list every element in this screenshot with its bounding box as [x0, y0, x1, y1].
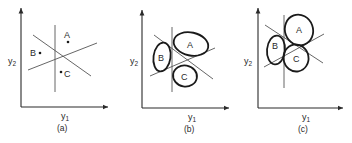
- boundary-ascending: [28, 43, 97, 70]
- boundary-descending: [33, 35, 91, 76]
- class-c-label: C: [64, 69, 71, 79]
- panel-c-caption: (c): [298, 124, 308, 134]
- class-b-label: B: [272, 41, 278, 51]
- class-a-label: A: [64, 30, 70, 40]
- class-b-point: [39, 52, 42, 55]
- class-a-label: A: [187, 40, 193, 50]
- panel-b-caption: (b): [184, 124, 195, 134]
- class-c-point: [60, 71, 63, 74]
- class-c-label: C: [181, 72, 188, 82]
- class-c-label: C: [293, 54, 300, 64]
- panel-a: A B C y2 y1 (a): [8, 8, 108, 133]
- y2-axis-label: y2: [244, 56, 253, 67]
- class-b-label: B: [30, 48, 36, 58]
- y1-axis-label: y1: [302, 112, 311, 123]
- panel-a-caption: (a): [57, 123, 68, 133]
- y1-axis-label: y1: [61, 111, 70, 122]
- class-a-point: [67, 41, 70, 44]
- y2-axis-label: y2: [130, 56, 139, 67]
- panel-b: A B C y2 y1 (b): [130, 10, 229, 134]
- class-a-label: A: [296, 25, 302, 35]
- class-b-label: B: [158, 53, 164, 63]
- figure-canvas: A B C y2 y1 (a) A B C y2 y1 (b) A: [0, 0, 352, 143]
- y1-axis-label: y1: [188, 112, 197, 123]
- panel-c: A B C y2 y1 (c): [244, 8, 343, 134]
- y2-axis-label: y2: [8, 56, 17, 67]
